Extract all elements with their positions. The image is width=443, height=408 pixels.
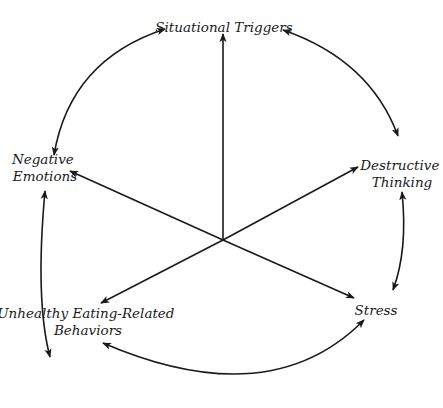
- spoke-to-destructive-thinking: [223, 167, 358, 240]
- label-negative-emotions: Negative Emotions: [11, 151, 78, 184]
- arc-negative-to-triggers: [54, 29, 165, 155]
- arc-unhealthy-to-negative: [41, 191, 50, 357]
- label-unhealthy-eating: Unhealthy Eating-Related Behaviors: [0, 305, 179, 338]
- label-situational-triggers: Situational Triggers: [155, 19, 292, 35]
- node-labels: Situational Triggers Destructive Thinkin…: [0, 19, 443, 338]
- spokes: [70, 34, 358, 303]
- arc-stress-to-unhealthy: [103, 320, 364, 374]
- label-stress: Stress: [355, 302, 398, 318]
- arc-destructive-to-stress: [393, 192, 404, 290]
- spoke-to-stress: [223, 240, 354, 298]
- spoke-to-unhealthy-eating: [101, 240, 223, 303]
- arc-triggers-to-destructive: [283, 30, 398, 136]
- cycle-diagram: Situational Triggers Destructive Thinkin…: [0, 0, 443, 408]
- label-destructive-thinking: Destructive Thinking: [359, 157, 443, 190]
- spoke-to-negative-emotions: [70, 171, 223, 240]
